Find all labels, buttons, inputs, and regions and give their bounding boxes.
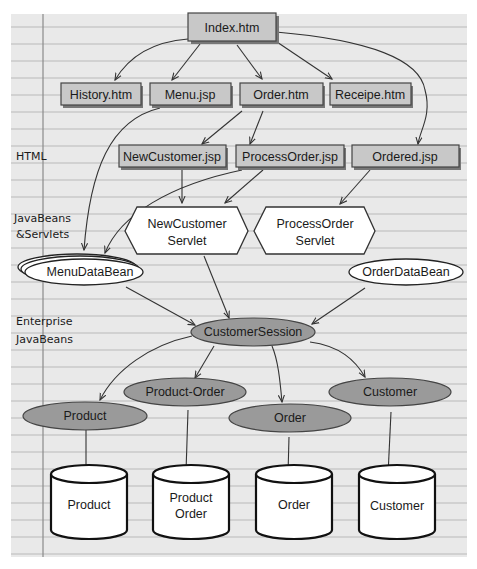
database-label-product-order-1: Product: [169, 491, 213, 505]
page-node-receipe[interactable]: Receipe.htm: [330, 83, 413, 108]
ejb-node-customer-session[interactable]: CustomerSession: [191, 318, 315, 346]
ejb-label-order: Order: [274, 411, 306, 425]
bean-node-order-data[interactable]: OrderDataBean: [349, 259, 463, 285]
database-label-product: Product: [67, 498, 111, 512]
servlet-label-process-order-2: Servlet: [296, 234, 335, 248]
page-label-order: Order.htm: [253, 88, 309, 102]
page-node-process-order[interactable]: ProcessOrder.jsp: [236, 145, 346, 170]
page-node-menu[interactable]: Menu.jsp: [150, 83, 233, 108]
ejb-label-product-order: Product-Order: [145, 385, 224, 399]
page-label-new-customer: NewCustomer.jsp: [123, 150, 221, 164]
section-label-ejb-javabeans: JavaBeans: [15, 333, 73, 346]
database-label-customer: Customer: [370, 499, 424, 513]
ejb-node-order[interactable]: Order: [229, 404, 351, 432]
database-label-product-order-2: Order: [175, 507, 207, 521]
bean-label-menu-data: MenuDataBean: [47, 265, 134, 279]
bean-node-menu-data[interactable]: MenuDataBean: [18, 254, 143, 285]
section-label-javabeans: JavaBeans: [13, 212, 71, 225]
database-node-product-order[interactable]: Product Order: [153, 465, 229, 539]
page-label-history: History.htm: [70, 88, 132, 102]
servlet-label-new-customer-2: Servlet: [168, 234, 207, 248]
page-node-ordered[interactable]: Ordered.jsp: [352, 145, 461, 170]
architecture-diagram: HTML JavaBeans &Servlets Enterprise Java…: [0, 0, 477, 569]
page-label-ordered: Ordered.jsp: [372, 150, 437, 164]
ejb-label-customer-session: CustomerSession: [204, 325, 303, 339]
ejb-node-customer[interactable]: Customer: [329, 378, 451, 406]
servlet-node-process-order[interactable]: ProcessOrder Servlet: [254, 207, 375, 254]
section-label-servlets: &Servlets: [16, 228, 69, 241]
page-label-receipe: Receipe.htm: [335, 88, 405, 102]
database-node-product[interactable]: Product: [51, 465, 127, 539]
page-node-history[interactable]: History.htm: [61, 83, 143, 108]
page-label-menu: Menu.jsp: [165, 88, 216, 102]
servlet-label-new-customer-1: NewCustomer: [147, 217, 226, 231]
page-label-process-order: ProcessOrder.jsp: [242, 150, 338, 164]
section-label-enterprise: Enterprise: [16, 315, 73, 328]
bean-label-order-data: OrderDataBean: [362, 265, 450, 279]
database-node-order[interactable]: Order: [256, 465, 332, 539]
ejb-node-product-order[interactable]: Product-Order: [124, 378, 246, 406]
ejb-label-product: Product: [63, 409, 107, 423]
page-label-index: Index.htm: [205, 21, 260, 35]
page-node-index[interactable]: Index.htm: [188, 13, 279, 44]
page-node-new-customer[interactable]: NewCustomer.jsp: [119, 145, 228, 170]
section-label-html: HTML: [16, 150, 47, 163]
servlet-label-process-order-1: ProcessOrder: [276, 217, 353, 231]
database-label-order: Order: [278, 498, 310, 512]
page-node-order[interactable]: Order.htm: [240, 83, 325, 108]
ejb-node-product[interactable]: Product: [23, 402, 147, 430]
ejb-label-customer: Customer: [363, 385, 417, 399]
database-node-customer[interactable]: Customer: [359, 465, 435, 539]
servlet-node-new-customer[interactable]: NewCustomer Servlet: [125, 207, 248, 254]
